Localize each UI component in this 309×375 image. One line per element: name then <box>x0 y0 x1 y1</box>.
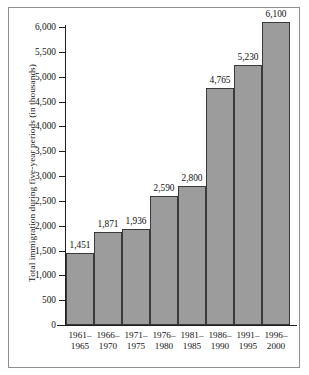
y-tick-label: 500 <box>0 295 56 305</box>
y-tick-mark <box>59 102 66 103</box>
x-tick-label-line: 2000 <box>258 341 294 352</box>
x-tick-label-8: 1996–2000 <box>258 330 294 352</box>
bar-8[interactable] <box>262 22 290 325</box>
y-tick-label: 4,000 <box>0 121 56 131</box>
y-tick-label: 3,000 <box>0 171 56 181</box>
y-tick-mark <box>59 176 66 177</box>
bar-7[interactable] <box>234 65 262 325</box>
x-axis-line <box>57 325 297 326</box>
y-tick-mark <box>59 201 66 202</box>
y-tick-mark <box>59 151 66 152</box>
bar-6[interactable] <box>206 88 234 325</box>
y-tick-label: 3,500 <box>0 146 56 156</box>
y-tick-mark <box>59 275 66 276</box>
bar-4[interactable] <box>150 196 178 325</box>
y-tick-mark <box>59 226 66 227</box>
y-tick-mark <box>59 52 66 53</box>
bar-value-label-8: 6,100 <box>253 9 299 19</box>
y-tick-label: 5,500 <box>0 47 56 57</box>
immigration-bar-chart-figure: Total immigration during five-year perio… <box>0 0 309 375</box>
y-tick-label: 2,500 <box>0 196 56 206</box>
bar-3[interactable] <box>122 229 150 325</box>
bar-2[interactable] <box>94 232 122 325</box>
bar-5[interactable] <box>178 186 206 325</box>
y-tick-mark <box>59 300 66 301</box>
plot-area: 1,4511,8711,9362,5902,8004,7655,2306,100 <box>66 27 291 325</box>
y-tick-label: 4,500 <box>0 97 56 107</box>
y-tick-mark <box>59 126 66 127</box>
y-tick-mark <box>59 251 66 252</box>
y-tick-label: 6,000 <box>0 22 56 32</box>
y-tick-label: 2,000 <box>0 221 56 231</box>
bar-1[interactable] <box>66 253 94 325</box>
x-tick-label-line: 1996– <box>258 330 294 341</box>
y-tick-mark <box>59 325 66 326</box>
y-tick-label: 1,500 <box>0 246 56 256</box>
y-tick-mark <box>59 27 66 28</box>
y-tick-label: 5,000 <box>0 72 56 82</box>
y-tick-label: 0 <box>0 320 56 330</box>
y-tick-label: 1,000 <box>0 270 56 280</box>
y-tick-mark <box>59 77 66 78</box>
